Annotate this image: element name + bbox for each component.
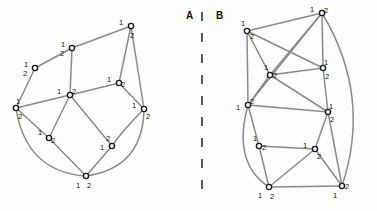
port-label: 2 xyxy=(146,112,150,121)
port-label: 2 xyxy=(130,31,134,40)
graph-node[interactable] xyxy=(256,143,261,148)
port-label: 1 xyxy=(38,128,42,137)
port-label: 1 xyxy=(61,40,65,49)
graph-node[interactable] xyxy=(83,173,88,178)
port-label: 1 xyxy=(258,191,262,200)
port-label: 1 xyxy=(24,60,28,69)
port-label: 1 xyxy=(119,18,123,27)
panel-label-a: A xyxy=(186,10,193,21)
graph-edge xyxy=(49,95,70,138)
graph-edge xyxy=(112,109,144,146)
port-label: 1 xyxy=(253,134,257,143)
port-label: 2 xyxy=(345,182,349,191)
graph-node[interactable] xyxy=(339,183,344,188)
port-label: 2 xyxy=(262,143,266,152)
graph-b: 12121212121212121212 xyxy=(236,5,353,201)
graph-canvas: 1212121212121212121212121212121212121212 xyxy=(0,0,377,211)
graph-node[interactable] xyxy=(32,65,37,70)
port-label: 1 xyxy=(310,5,314,14)
graph-edge xyxy=(247,31,248,105)
graph-node[interactable] xyxy=(109,143,114,148)
graph-node[interactable] xyxy=(13,105,18,110)
port-label: 1 xyxy=(76,181,80,190)
port-label: 2 xyxy=(87,181,91,190)
port-label: 2 xyxy=(250,97,254,106)
port-label: 1 xyxy=(16,97,20,106)
port-label: 1 xyxy=(324,58,328,67)
port-label: 2 xyxy=(121,80,125,89)
port-label: 2 xyxy=(325,72,329,81)
port-label: 1 xyxy=(241,19,245,28)
port-label: 1 xyxy=(132,101,136,110)
graph-edge xyxy=(269,186,342,187)
port-label: 2 xyxy=(330,115,334,124)
graph-node[interactable] xyxy=(244,28,249,33)
graph-edge xyxy=(248,13,322,105)
graph-node[interactable] xyxy=(266,184,271,189)
graph-node[interactable] xyxy=(267,72,272,77)
graph-node[interactable] xyxy=(69,45,74,50)
port-label: 2 xyxy=(51,136,55,145)
port-label: 1 xyxy=(333,191,337,200)
graph-edge xyxy=(248,105,328,112)
graph-node[interactable] xyxy=(128,23,133,28)
figure-root: 1212121212121212121212121212121212121212… xyxy=(0,0,377,211)
graph-b-edges xyxy=(243,13,353,187)
port-label: 2 xyxy=(106,134,110,143)
port-label: 1 xyxy=(303,141,307,150)
graph-edge xyxy=(270,68,323,75)
graph-edge xyxy=(72,26,131,48)
port-label: 1 xyxy=(57,87,61,96)
graph-edge xyxy=(247,31,323,68)
port-label: 2 xyxy=(270,192,274,201)
port-label: 2 xyxy=(250,32,254,41)
port-label: 1 xyxy=(107,75,111,84)
port-label: 1 xyxy=(264,63,268,72)
graph-edge xyxy=(70,83,119,95)
graph-edge xyxy=(247,13,322,31)
graph-edge xyxy=(35,48,72,68)
graph-node[interactable] xyxy=(141,106,146,111)
port-label: 2 xyxy=(273,71,277,80)
graph-edge xyxy=(315,112,328,149)
graph-edge xyxy=(269,149,315,187)
port-label: 2 xyxy=(60,49,64,58)
port-label: 2 xyxy=(72,87,76,96)
port-label: 1 xyxy=(329,102,333,111)
graph-node[interactable] xyxy=(312,146,317,151)
port-label: 2 xyxy=(23,69,27,78)
port-label: 2 xyxy=(317,152,321,161)
port-label: 2 xyxy=(18,112,22,121)
graph-a: 12121212121212121212 xyxy=(13,18,150,190)
graph-edge xyxy=(270,75,328,112)
graph-edge xyxy=(322,13,323,68)
port-label: 2 xyxy=(324,6,328,15)
graph-a-edges xyxy=(16,26,144,176)
port-label: 1 xyxy=(236,103,240,112)
port-label: 1 xyxy=(100,143,104,152)
graph-edge xyxy=(16,95,70,108)
panel-label-b: B xyxy=(216,10,223,21)
